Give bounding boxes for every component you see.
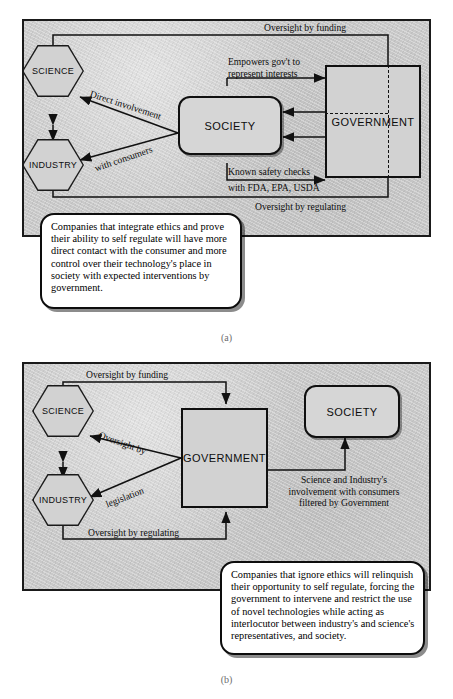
label-known-safety-line2-a: with FDA, EPA, USDA	[228, 182, 320, 193]
figure-container: SCIENCE INDUSTRY SOCIETY GOVERNMENT Over…	[0, 0, 453, 699]
callout-b: Companies that ignore ethics will relinq…	[220, 561, 425, 655]
label-known-safety-line1-a: Known safety checks	[228, 166, 310, 177]
label-oversight-funding-a: Oversight by funding	[264, 22, 346, 33]
node-society-b-label: SOCIETY	[326, 406, 377, 418]
caption-a: (a)	[0, 332, 453, 343]
node-government-a[interactable]: GOVERNMENT	[325, 65, 421, 178]
node-society-b[interactable]: SOCIETY	[304, 385, 400, 438]
label-filtered-block-b: Science and Industry's involvement with …	[285, 474, 403, 509]
label-empowers-line1-a: Empowers gov't to	[228, 56, 300, 67]
node-science-b-label: SCIENCE	[42, 406, 84, 416]
node-science-a-label: SCIENCE	[32, 66, 74, 76]
node-industry-b-label: INDUSTRY	[39, 495, 87, 505]
government-a-divider-horizontal	[325, 113, 388, 114]
government-a-divider-vertical	[388, 65, 389, 178]
callout-a: Companies that integrate ethics and prov…	[40, 213, 242, 309]
node-government-a-label: GOVERNMENT	[332, 116, 415, 128]
node-society-a[interactable]: SOCIETY	[178, 96, 282, 155]
node-industry-a-label: INDUSTRY	[29, 160, 77, 170]
label-oversight-funding-b: Oversight by funding	[86, 369, 168, 380]
label-oversight-regulating-b: Oversight by regulating	[88, 527, 179, 538]
node-society-a-label: SOCIETY	[204, 120, 255, 132]
node-government-b-label: GOVERNMENT	[183, 452, 266, 464]
node-government-b[interactable]: GOVERNMENT	[181, 408, 268, 508]
label-empowers-line2-a: represent interests	[228, 68, 298, 79]
label-oversight-regulating-a: Oversight by regulating	[255, 201, 346, 212]
caption-b: (b)	[0, 674, 453, 685]
